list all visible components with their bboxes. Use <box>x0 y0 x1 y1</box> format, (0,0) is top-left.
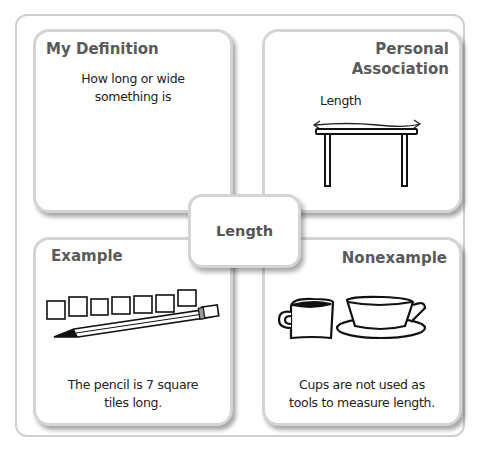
cups-icon <box>273 290 443 350</box>
center-term-box: Length <box>188 194 301 268</box>
card-title: My Definition <box>46 39 159 59</box>
example-text-line2: tiles long. <box>36 394 230 412</box>
pencil-and-tiles-icon <box>44 285 224 345</box>
association-label: Length <box>320 92 361 110</box>
card-title-line2: Association <box>352 59 449 79</box>
card-my-definition: My Definition How long or wide something… <box>33 29 233 213</box>
card-title: Nonexample <box>342 248 447 268</box>
table-icon <box>307 117 427 197</box>
center-term: Length <box>216 223 273 239</box>
example-text-line1: The pencil is 7 square <box>36 376 230 394</box>
card-title: Example <box>51 246 123 266</box>
definition-text-line1: How long or wide <box>36 70 230 88</box>
nonexample-text-line1: Cups are not used as <box>265 376 459 394</box>
nonexample-text-line2: tools to measure length. <box>265 394 459 412</box>
definition-text-line2: something is <box>36 88 230 106</box>
card-personal-association: Personal Association Length <box>262 29 462 213</box>
card-title-line1: Personal <box>375 39 449 59</box>
